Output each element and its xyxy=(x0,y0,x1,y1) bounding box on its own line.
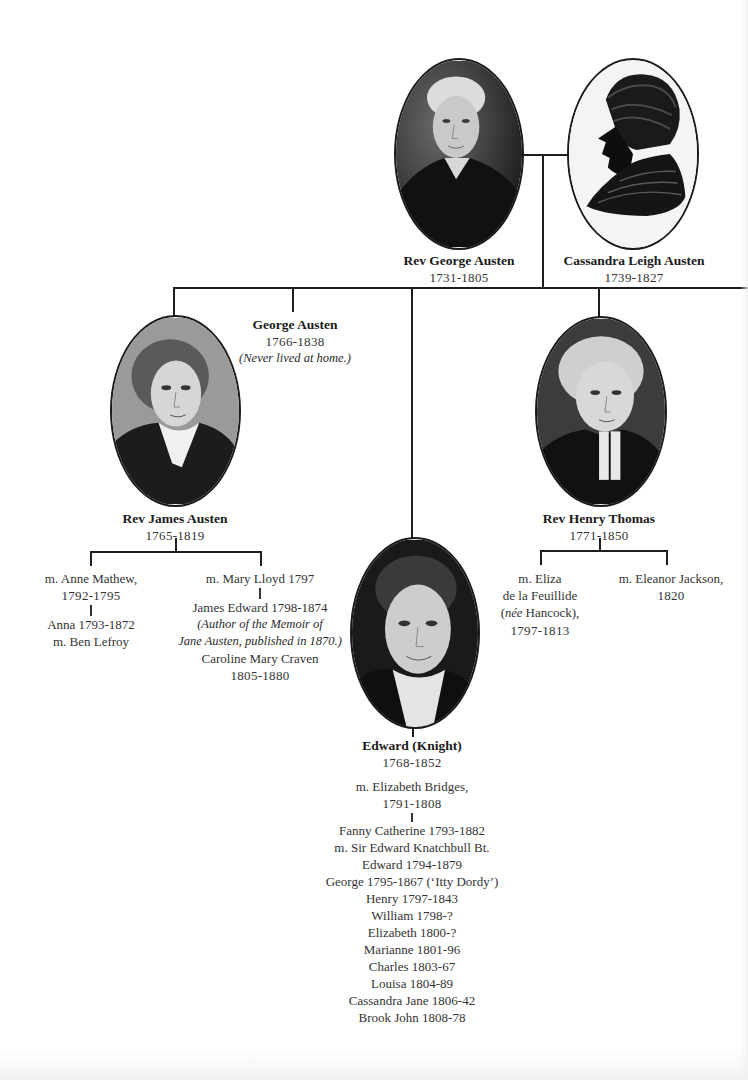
siblings-line xyxy=(173,287,748,289)
person-name: Rev James Austen xyxy=(100,510,250,527)
parents-marriage-line xyxy=(521,154,568,156)
child-spouse: m. Ben Lefroy xyxy=(20,633,162,650)
george-drop-line xyxy=(292,287,294,312)
spouse: m. Eliza xyxy=(490,570,590,587)
cassandra-leigh-austen-label: Cassandra Leigh Austen 1739-1827 xyxy=(550,252,718,286)
george-austen-sr-portrait xyxy=(394,58,524,250)
child: James Edward 1798-1874 xyxy=(170,599,350,616)
henry-marriage1-drop xyxy=(540,550,542,565)
list-item: Brook John 1808-78 xyxy=(310,1009,514,1026)
person-name: Rev George Austen xyxy=(380,252,538,269)
descent-tick xyxy=(259,588,261,599)
edward-children-list: Fanny Catherine 1793-1882 m. Sir Edward … xyxy=(310,822,514,1026)
child-dates: 1805-1880 xyxy=(170,667,350,684)
list-item: Elizabeth 1800-? xyxy=(310,924,514,941)
person-dates: 1768-1852 xyxy=(310,754,514,771)
james-marriages-line xyxy=(90,551,262,553)
edward-knight-portrait xyxy=(350,537,480,729)
henry-drop-line xyxy=(598,287,600,317)
person-dates: 1739-1827 xyxy=(550,269,718,286)
child: Anna 1793-1872 xyxy=(20,616,162,633)
painted-portrait-icon xyxy=(396,60,522,248)
list-item: Marianne 1801-96 xyxy=(310,941,514,958)
child-note: (Author of the Memoir of xyxy=(170,616,350,633)
spouse: m. Elizabeth Bridges, xyxy=(310,778,514,795)
george-austen-jr-label: George Austen 1766-1838 (Never lived at … xyxy=(222,316,368,367)
list-item: Louisa 1804-89 xyxy=(310,975,514,992)
james-marriage-2: m. Mary Lloyd 1797 James Edward 1798-187… xyxy=(170,570,350,684)
descent-tick xyxy=(90,605,92,616)
list-item: Fanny Catherine 1793-1882 xyxy=(310,822,514,839)
marriage-years: 1820 xyxy=(606,587,736,604)
list-item: William 1798-? xyxy=(310,907,514,924)
james-marriage2-drop xyxy=(260,551,262,566)
spouse: de la Feuillide xyxy=(490,587,590,604)
child-note: Jane Austen, published in 1870.) xyxy=(170,633,350,650)
person-name: Cassandra Leigh Austen xyxy=(550,252,718,269)
cassandra-leigh-austen-silhouette xyxy=(567,58,699,250)
list-item: Edward 1794-1879 xyxy=(310,856,514,873)
spouse-maiden: (née Hancock), xyxy=(490,604,590,622)
parents-descent-line xyxy=(542,154,544,289)
spouse: m. Anne Mathew, xyxy=(20,570,162,587)
person-note: (Never lived at home.) xyxy=(222,350,368,367)
list-item: m. Sir Edward Knatchbull Bt. xyxy=(310,839,514,856)
james-marriage-1: m. Anne Mathew, 1792-1795 Anna 1793-1872… xyxy=(20,570,162,650)
edward-drop-line xyxy=(411,287,413,539)
painted-portrait-icon xyxy=(352,539,478,727)
james-drop-line xyxy=(173,287,175,317)
henry-marriage-2: m. Eleanor Jackson, 1820 xyxy=(606,570,736,604)
spouse: m. Mary Lloyd 1797 xyxy=(170,570,350,587)
page-bottom-shadow xyxy=(0,1050,748,1080)
page-right-edge xyxy=(740,0,748,1080)
henry-marriage-1: m. Eliza de la Feuillide (née Hancock), … xyxy=(490,570,590,639)
list-item: George 1795-1867 (‘Itty Dordy’) xyxy=(310,873,514,890)
person-dates: 1731-1805 xyxy=(380,269,538,286)
henry-marriage2-drop xyxy=(666,550,668,565)
person-name: Rev Henry Thomas xyxy=(524,510,674,527)
george-austen-sr-label: Rev George Austen 1731-1805 xyxy=(380,252,538,286)
descent-tick xyxy=(411,813,413,822)
painted-portrait-icon xyxy=(112,317,239,505)
person-dates: 1766-1838 xyxy=(222,333,368,350)
henry-thomas-label: Rev Henry Thomas 1771-1850 xyxy=(524,510,674,544)
person-dates: 1765-1819 xyxy=(100,527,250,544)
james-marriage1-drop xyxy=(90,551,92,566)
person-dates: 1771-1850 xyxy=(524,527,674,544)
list-item: Cassandra Jane 1806-42 xyxy=(310,992,514,1009)
marriage-years: 1797-1813 xyxy=(490,622,590,639)
person-name: George Austen xyxy=(222,316,368,333)
child: Caroline Mary Craven xyxy=(170,650,350,667)
list-item: Henry 1797-1843 xyxy=(310,890,514,907)
silhouette-portrait-icon xyxy=(569,60,697,248)
list-item: Charles 1803-67 xyxy=(310,958,514,975)
edward-knight-label: Edward (Knight) 1768-1852 m. Elizabeth B… xyxy=(310,737,514,1026)
person-name: Edward (Knight) xyxy=(310,737,514,754)
henry-thomas-austen-portrait xyxy=(535,316,667,507)
james-austen-label: Rev James Austen 1765-1819 xyxy=(100,510,250,544)
marriage-years: 1791-1808 xyxy=(310,795,514,812)
henry-marriages-line xyxy=(540,550,668,552)
painted-portrait-icon xyxy=(537,318,665,505)
marriage-years: 1792-1795 xyxy=(20,587,162,604)
spouse: m. Eleanor Jackson, xyxy=(606,570,736,587)
